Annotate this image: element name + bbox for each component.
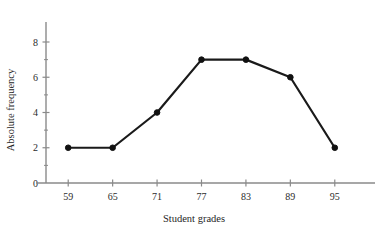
y-tick-label: 6 [33, 72, 38, 83]
chart-container: 02468 59657177838995 Student grades Abso… [0, 0, 379, 233]
x-tick-label: 89 [285, 191, 295, 202]
data-point-marker [288, 74, 294, 80]
x-tick-label: 95 [330, 191, 340, 202]
x-tick-label: 71 [152, 191, 162, 202]
y-tick-label: 4 [33, 107, 38, 118]
x-tick-label: 83 [241, 191, 251, 202]
data-point-marker [154, 110, 160, 116]
x-tick-label: 59 [63, 191, 73, 202]
x-axis-title: Student grades [163, 213, 225, 224]
frequency-polygon-chart: 02468 59657177838995 Student grades Abso… [0, 0, 379, 233]
data-point-marker [332, 145, 338, 151]
data-point-marker [65, 145, 71, 151]
data-point-marker [199, 57, 205, 63]
data-point-marker [110, 145, 116, 151]
chart-background [0, 0, 379, 233]
x-tick-label: 65 [108, 191, 118, 202]
y-tick-label: 2 [33, 142, 38, 153]
y-axis-title: Absolute frequency [5, 68, 16, 151]
x-tick-label: 77 [197, 191, 207, 202]
y-tick-label: 8 [33, 37, 38, 48]
data-point-marker [243, 57, 249, 63]
